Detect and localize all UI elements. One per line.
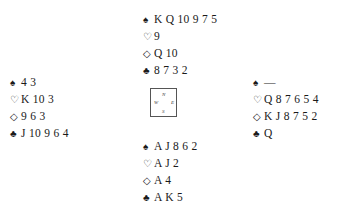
compass-east: E bbox=[171, 100, 174, 105]
north-diamonds: ◇Q 10 bbox=[143, 45, 217, 62]
east-hand: ♠— ♡Q 8 7 6 5 4 ◇K J 8 7 5 2 ♣Q bbox=[253, 74, 319, 142]
west-diamonds: ◇9 6 3 bbox=[10, 108, 69, 125]
compass-box: N W E S bbox=[150, 88, 177, 117]
spade-icon: ♠ bbox=[143, 139, 154, 155]
heart-icon: ♡ bbox=[143, 29, 154, 45]
east-hearts: ♡Q 8 7 6 5 4 bbox=[253, 91, 319, 108]
heart-icon: ♡ bbox=[253, 92, 264, 108]
south-clubs: ♣A K 5 bbox=[143, 189, 198, 206]
east-clubs: ♣Q bbox=[253, 125, 319, 142]
club-icon: ♣ bbox=[10, 126, 21, 142]
north-hand: ♠K Q 10 9 7 5 ♡9 ◇Q 10 ♣8 7 3 2 bbox=[143, 11, 217, 79]
south-diamonds: ◇A 4 bbox=[143, 172, 198, 189]
west-hearts: ♡K 10 3 bbox=[10, 91, 69, 108]
east-diamonds: ◇K J 8 7 5 2 bbox=[253, 108, 319, 125]
north-hearts: ♡9 bbox=[143, 28, 217, 45]
west-clubs: ♣J 10 9 6 4 bbox=[10, 125, 69, 142]
south-spades: ♠A J 8 6 2 bbox=[143, 138, 198, 155]
west-spades: ♠4 3 bbox=[10, 74, 69, 91]
compass-north: N bbox=[162, 92, 165, 97]
south-hearts: ♡A J 2 bbox=[143, 155, 198, 172]
club-icon: ♣ bbox=[253, 126, 264, 142]
spade-icon: ♠ bbox=[253, 75, 264, 91]
diamond-icon: ◇ bbox=[143, 173, 154, 189]
west-hand: ♠4 3 ♡K 10 3 ◇9 6 3 ♣J 10 9 6 4 bbox=[10, 74, 69, 142]
diamond-icon: ◇ bbox=[253, 109, 264, 125]
club-icon: ♣ bbox=[143, 63, 154, 79]
north-clubs: ♣8 7 3 2 bbox=[143, 62, 217, 79]
south-hand: ♠A J 8 6 2 ♡A J 2 ◇A 4 ♣A K 5 bbox=[143, 138, 198, 206]
spade-icon: ♠ bbox=[143, 12, 154, 28]
club-icon: ♣ bbox=[143, 190, 154, 206]
diamond-icon: ◇ bbox=[10, 109, 21, 125]
spade-icon: ♠ bbox=[10, 75, 21, 91]
compass-west: W bbox=[154, 100, 158, 105]
north-spades: ♠K Q 10 9 7 5 bbox=[143, 11, 217, 28]
east-spades: ♠— bbox=[253, 74, 319, 91]
diamond-icon: ◇ bbox=[143, 46, 154, 62]
compass-south: S bbox=[162, 109, 165, 114]
heart-icon: ♡ bbox=[143, 156, 154, 172]
heart-icon: ♡ bbox=[10, 92, 21, 108]
